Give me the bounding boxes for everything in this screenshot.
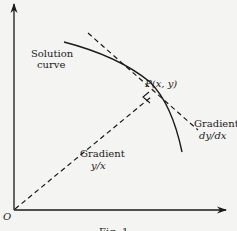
curve-label-line2: curve <box>37 59 65 70</box>
solution-curve-diagram: Solution curve P(x, y) Gradient dy/dx Gr… <box>0 0 237 231</box>
radial-label-line2: y/x <box>90 160 106 171</box>
solution-curve <box>64 42 182 152</box>
tangent-label-line1: Gradient <box>194 118 237 129</box>
right-angle-marker <box>143 92 150 103</box>
figure-caption: Fig. 1 <box>99 226 128 231</box>
curve-label-line1: Solution <box>31 48 74 59</box>
point-label: P(x, y) <box>144 78 177 89</box>
radial-label-line1: Gradient <box>80 148 125 159</box>
tangent-label-line2: dy/dx <box>199 130 227 141</box>
tangent-line <box>88 33 198 130</box>
origin-label: O <box>3 211 11 222</box>
